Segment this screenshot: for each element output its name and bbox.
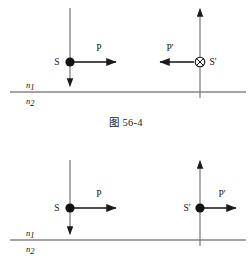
bottom-right-source-label: S' (184, 203, 191, 213)
top-right-source-group: S' P' (160, 9, 217, 98)
medium-label-n1-top: n1 (26, 80, 35, 92)
bottom-left-source-label: S (54, 203, 59, 213)
top-left-source-label: S (54, 57, 59, 67)
figure-root: n1 n2 S P S' P' 图 56-4 (0, 0, 252, 273)
top-right-source-marker-crossed-circle (195, 57, 205, 67)
diagram-panel-top: n1 n2 S P S' P' (0, 0, 252, 112)
bottom-right-source-group: S' P' (184, 161, 237, 246)
medium-label-n2-bottom: n2 (26, 244, 35, 256)
top-right-source-label: S' (210, 57, 217, 67)
top-right-vector-label-Pprime: P' (167, 43, 174, 53)
bottom-left-vector-label-P: P (96, 189, 101, 199)
bottom-right-vector-label-Pprime: P' (219, 189, 226, 199)
bottom-left-source-group: S P (54, 160, 116, 234)
medium-label-n2-top: n2 (26, 96, 35, 108)
top-left-vector-label-P: P (96, 43, 101, 53)
diagram-panel-bottom: n1 n2 S P S' P' (0, 140, 252, 273)
top-left-source-group: S P (54, 8, 116, 86)
medium-label-n1-bottom: n1 (26, 228, 35, 240)
figure-caption: 图 56-4 (0, 114, 252, 129)
